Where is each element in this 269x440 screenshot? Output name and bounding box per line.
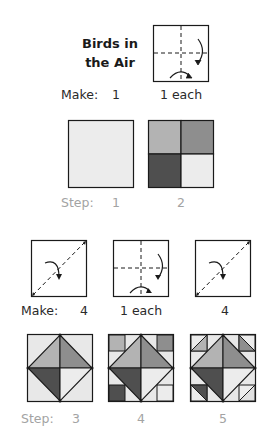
corner-bottom-left	[109, 385, 125, 401]
step-number: 1	[112, 195, 120, 210]
step-label: Step:	[21, 411, 54, 426]
make-count: 4	[221, 303, 229, 318]
corner-top-right	[157, 335, 173, 351]
fold-diagonal-icon	[195, 240, 251, 297]
fold-quarters-icon	[113, 240, 169, 297]
make-count: 1	[112, 87, 120, 102]
step-4-block	[108, 334, 174, 402]
step-number: 3	[72, 411, 80, 426]
corner-bottom-right	[157, 385, 173, 401]
make-label: Make:	[61, 87, 98, 102]
patch-bottom-right	[181, 154, 214, 188]
plain-square	[69, 121, 134, 188]
block-title: Birds in the Air	[78, 34, 142, 72]
step-1-block	[68, 120, 134, 188]
step-3-block	[27, 334, 93, 402]
patch-bottom-left	[149, 154, 182, 188]
make-count: 1 each	[160, 87, 202, 102]
step-5-block	[190, 334, 256, 402]
patch-top-right	[181, 121, 214, 155]
title-line-2: the Air	[78, 53, 142, 72]
corner-top-left	[109, 335, 125, 351]
step-number: 2	[177, 195, 185, 210]
patch-top-left	[149, 121, 182, 155]
step-2-block	[148, 120, 214, 188]
step-label: Step:	[61, 195, 94, 210]
fold-diagonal-icon	[31, 240, 87, 297]
step-number: 4	[137, 411, 145, 426]
step-number: 5	[219, 411, 227, 426]
make-count: 1 each	[120, 303, 162, 318]
make-count: 4	[80, 303, 88, 318]
title-line-1: Birds in	[78, 34, 142, 53]
fold-quarters-icon	[153, 25, 209, 82]
make-label: Make:	[21, 303, 58, 318]
